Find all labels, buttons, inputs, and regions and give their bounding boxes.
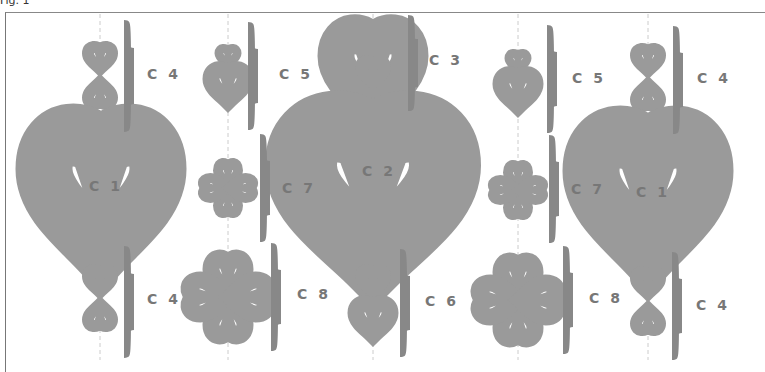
label-c1-left: C 1	[89, 178, 123, 194]
c7-clover-left	[204, 164, 252, 212]
brace-c5-left	[248, 49, 258, 103]
c8-clover-right	[480, 262, 556, 338]
label-c4-bottom-right: C 4	[696, 297, 730, 313]
brace-c4-top-left	[124, 48, 134, 104]
brace-c7-right	[549, 162, 559, 216]
brace-c4-top-right	[673, 53, 683, 107]
brace-c8-right	[563, 273, 573, 327]
label-c8-right: C 8	[589, 290, 623, 306]
label-c4-top-right: C 4	[697, 70, 731, 86]
label-c1-right: C 1	[636, 184, 670, 200]
brace-c8-left	[271, 270, 281, 324]
label-c4-top-left: C 4	[147, 66, 181, 82]
brace-c4-bottom-right	[672, 279, 682, 333]
c4-heart-pair-top-left	[88, 47, 112, 104]
label-c7-right: C 7	[571, 181, 605, 197]
c4-heart-pair-bottom-left	[88, 270, 112, 326]
c8-clover-left	[190, 259, 266, 335]
label-c2: C 2	[362, 163, 396, 179]
label-c4-bottom-left: C 4	[147, 291, 181, 307]
c2-largest-heart	[301, 126, 445, 259]
label-c8-left: C 8	[297, 286, 331, 302]
c5-stacked-hearts-left	[211, 48, 245, 101]
label-c5-right: C 5	[572, 70, 606, 86]
brace-c6	[400, 276, 410, 330]
label-c6: C 6	[425, 293, 459, 309]
c4-heart-pair-top-right	[636, 49, 660, 106]
label-c5-left: C 5	[279, 66, 313, 82]
label-c3: C 3	[429, 52, 463, 68]
label-c7-left: C 7	[282, 180, 316, 196]
brace-c3	[408, 39, 418, 87]
brace-c4-bottom-left	[124, 274, 134, 330]
c6-heart-pair	[356, 270, 390, 335]
c5-stacked-hearts-right	[501, 53, 535, 106]
c4-heart-pair-bottom-right	[636, 272, 660, 330]
brace-c5-right	[547, 52, 557, 106]
c7-clover-right	[494, 166, 542, 214]
brace-c7-left	[260, 161, 270, 215]
